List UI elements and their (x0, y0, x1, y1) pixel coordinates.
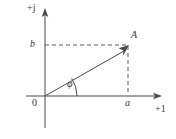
vector-oa-line (45, 51, 124, 96)
figure-canvas (0, 0, 176, 139)
imaginary-part-label: b (30, 39, 35, 49)
vector-oa-arrowhead (119, 45, 129, 56)
y-axis-label: +j (27, 3, 35, 13)
origin-label: 0 (32, 98, 37, 108)
complex-plane-figure: +j +1 0 b a A φ (0, 0, 176, 139)
real-part-label: a (125, 98, 130, 108)
angle-phi-label: φ (67, 79, 73, 89)
x-axis-label: +1 (155, 104, 166, 114)
point-a-label: A (131, 30, 137, 40)
